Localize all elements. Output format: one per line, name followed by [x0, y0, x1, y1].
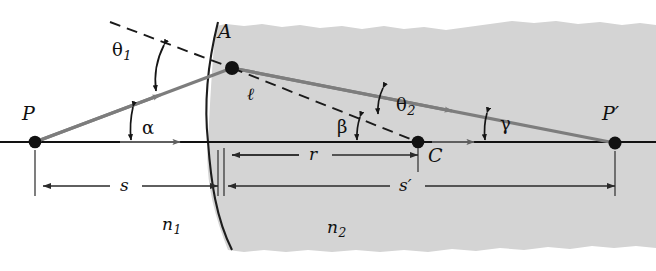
- optics-figure: P A C P′ ℓ θ1 α θ2 β γ r s s′ n1 n2: [0, 0, 656, 271]
- label-dim-r: r: [309, 146, 317, 163]
- label-point-Pprime: P′: [602, 104, 619, 123]
- angle-marker-alpha: [130, 107, 133, 140]
- label-index-n1: n1: [162, 216, 181, 236]
- label-dim-sprime: s′: [399, 177, 412, 194]
- label-index-n2-sub: 2: [338, 226, 346, 240]
- label-angle-theta1: θ1: [112, 41, 132, 63]
- label-angle-theta2: θ2: [396, 96, 416, 118]
- label-angle-theta1-sub: 1: [123, 48, 132, 63]
- label-angle-theta1-base: θ: [112, 39, 123, 60]
- point-dot-C: [412, 136, 425, 149]
- label-angle-theta2-sub: 2: [407, 103, 416, 118]
- label-index-n1-base: n: [162, 214, 173, 234]
- point-dot-A: [225, 61, 239, 75]
- label-point-Pprime-base: P: [602, 102, 615, 124]
- label-angle-theta2-base: θ: [396, 94, 407, 115]
- label-dim-sprime-mark: ′: [408, 175, 412, 195]
- angle-marker-theta1: [155, 45, 164, 91]
- label-angle-gamma: γ: [500, 115, 511, 133]
- label-point-P: P: [22, 104, 35, 123]
- label-point-A: A: [218, 22, 232, 41]
- label-angle-beta: β: [337, 118, 347, 136]
- point-dot-P: [29, 136, 42, 149]
- label-point-Pprime-mark: ′: [615, 102, 619, 124]
- label-segment-ell: ℓ: [247, 86, 254, 103]
- label-point-C: C: [428, 146, 443, 165]
- label-dim-s: s: [120, 177, 129, 194]
- label-index-n2-base: n: [327, 217, 338, 237]
- label-index-n1-sub: 1: [173, 223, 181, 237]
- label-dim-sprime-base: s: [399, 175, 408, 195]
- label-index-n2: n2: [327, 219, 346, 239]
- label-angle-alpha: α: [142, 119, 154, 137]
- point-dot-Pprime: [609, 137, 622, 150]
